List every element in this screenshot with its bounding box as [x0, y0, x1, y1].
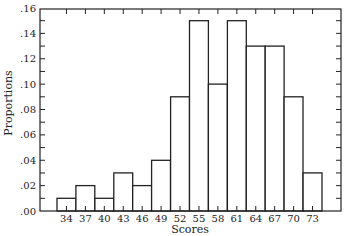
bar-73 — [303, 173, 322, 211]
x-tick-label: 61 — [230, 213, 243, 224]
y-tick-label: .12 — [20, 53, 36, 64]
bar-43 — [114, 173, 133, 211]
x-axis-title: Scores — [171, 223, 209, 236]
y-tick-label: .04 — [20, 155, 36, 166]
bar-52 — [171, 97, 190, 211]
bar-61 — [227, 21, 246, 211]
bar-64 — [246, 46, 265, 211]
bar-49 — [152, 160, 171, 211]
x-tick-label: 73 — [306, 213, 319, 224]
y-tick-label: .08 — [20, 104, 36, 115]
bars — [57, 21, 322, 211]
y-tick-labels: .00.02.04.06.08.10.12.14.16 — [20, 3, 36, 217]
x-tick-label: 40 — [98, 213, 111, 224]
x-tick-label: 34 — [60, 213, 73, 224]
x-tick-label: 43 — [117, 213, 130, 224]
y-tick-label: .14 — [20, 28, 36, 39]
x-tick-label: 70 — [287, 213, 300, 224]
y-tick-label: .10 — [20, 79, 36, 90]
x-tick-label: 67 — [268, 213, 281, 224]
bar-70 — [284, 97, 303, 211]
x-tick-label: 37 — [79, 213, 92, 224]
bar-58 — [208, 84, 227, 211]
x-tick-label: 58 — [212, 213, 225, 224]
bar-67 — [265, 46, 284, 211]
bar-55 — [190, 21, 209, 211]
x-tick-label: 64 — [249, 213, 262, 224]
y-tick-label: .06 — [20, 129, 36, 140]
y-axis-title: Proportions — [2, 70, 15, 136]
y-tick-label: .16 — [20, 3, 36, 14]
x-tick-label: 46 — [136, 213, 149, 224]
y-tick-label: .00 — [20, 206, 36, 217]
x-tick-label: 49 — [155, 213, 168, 224]
y-tick-label: .02 — [20, 180, 36, 191]
histogram-chart: .00.02.04.06.08.10.12.14.16 343740434649… — [0, 0, 345, 236]
